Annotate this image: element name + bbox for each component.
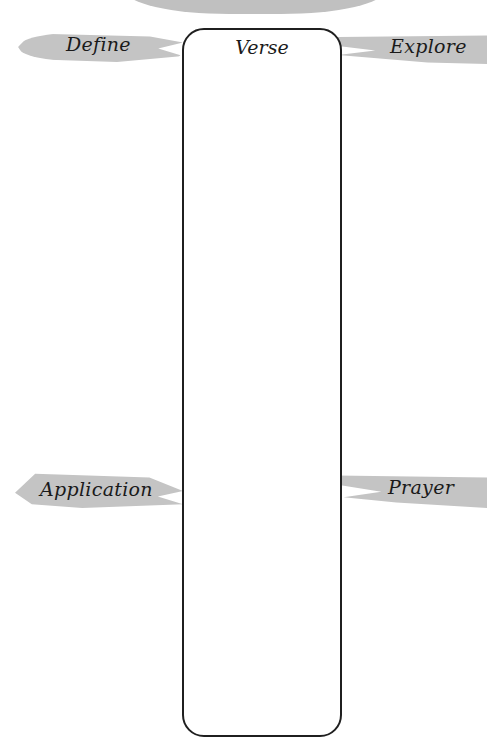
define-label: Define xyxy=(66,33,131,55)
verse-box[interactable]: Verse xyxy=(182,28,342,737)
application-label: Application xyxy=(40,478,153,500)
explore-label: Explore xyxy=(390,35,467,57)
prayer-label: Prayer xyxy=(388,476,454,498)
top-brush-decoration xyxy=(125,0,385,14)
verse-label: Verse xyxy=(184,36,340,58)
